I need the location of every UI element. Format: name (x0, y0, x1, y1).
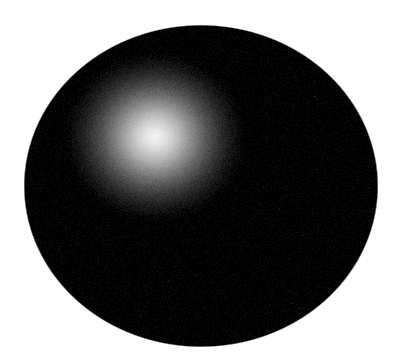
rendered-image-canvas (0, 0, 403, 363)
image-canvas: Dark spherical body with bright diffuse … (0, 0, 403, 363)
